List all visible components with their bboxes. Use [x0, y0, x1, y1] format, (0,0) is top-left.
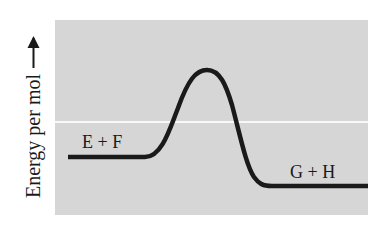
energy-curve [0, 0, 384, 226]
y-axis-label: Energy per mol [22, 38, 45, 198]
products-label: G + H [290, 163, 335, 181]
reactants-label: E + F [82, 133, 122, 151]
arrow-up-icon [32, 38, 34, 68]
y-axis-text: Energy per mol [22, 74, 45, 198]
